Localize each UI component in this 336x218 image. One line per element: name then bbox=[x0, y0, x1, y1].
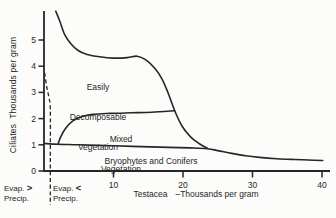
y-tick-label: 3 bbox=[31, 87, 36, 97]
annotation-bryophytes-and-conifers: Bryophytes and Conifers bbox=[104, 156, 197, 166]
annotation-line: Easily bbox=[70, 82, 127, 92]
chart-canvas: 01234510203040 bbox=[0, 0, 336, 218]
precip-line: Precip. bbox=[53, 194, 81, 204]
precip-line: Precip. bbox=[4, 194, 32, 204]
figure: 01234510203040 Ciliates Thousands per gr… bbox=[0, 0, 336, 218]
x-axis-unit: –Thousands per gram bbox=[175, 189, 258, 199]
evap-line: Evap. > bbox=[4, 183, 32, 194]
x-axis-title: Testacea –Thousands per gram bbox=[133, 189, 258, 199]
greater-than-symbol: > bbox=[27, 182, 33, 193]
y-tick-label: 5 bbox=[31, 35, 36, 45]
annotation-mixed-vegetation: Mixed Vegetation bbox=[101, 114, 141, 194]
x-axis-name: Testacea bbox=[133, 189, 167, 199]
y-tick-label: 0 bbox=[31, 166, 36, 176]
y-tick-label: 4 bbox=[31, 61, 36, 71]
y-tick-label: 2 bbox=[31, 114, 36, 124]
evap-line: Evap. < bbox=[53, 183, 81, 194]
annotation-line: Mixed bbox=[101, 134, 141, 144]
y-tick-label: 1 bbox=[31, 140, 36, 150]
evap-greater-precip-label: Evap. > Precip. bbox=[4, 183, 32, 203]
evap-boundary-dashed-line bbox=[45, 73, 51, 205]
less-than-symbol: < bbox=[76, 182, 82, 193]
evap-less-precip-label: Evap. < Precip. bbox=[53, 183, 81, 203]
y-axis-title: Ciliates Thousands per gram bbox=[8, 37, 18, 153]
x-tick-label: 40 bbox=[317, 180, 327, 190]
